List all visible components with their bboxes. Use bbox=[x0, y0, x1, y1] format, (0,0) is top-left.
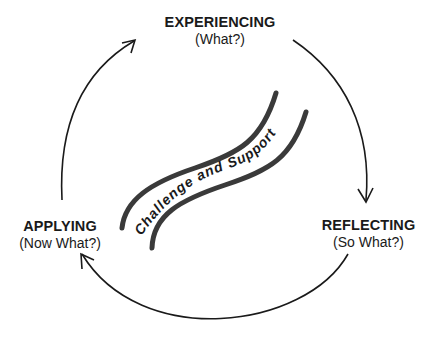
stage-subtitle: (What?) bbox=[120, 31, 320, 47]
stage-experiencing: EXPERIENCING (What?) bbox=[120, 14, 320, 47]
stage-title: EXPERIENCING bbox=[120, 14, 320, 31]
arrow-applying-to-experiencing bbox=[62, 40, 135, 200]
stage-title: APPLYING bbox=[0, 218, 120, 235]
stage-reflecting: REFLECTING (So What?) bbox=[300, 217, 437, 250]
arrow-reflecting-to-applying bbox=[81, 254, 348, 319]
challenge-support-band: Challenge and Support bbox=[122, 93, 306, 248]
stage-subtitle: (So What?) bbox=[300, 234, 437, 250]
band-lower-stroke bbox=[152, 112, 306, 248]
band-label: Challenge and Support bbox=[131, 125, 280, 238]
arc-left bbox=[62, 41, 134, 200]
cycle-diagram: Challenge and Support bbox=[0, 0, 437, 351]
arrowhead-down-icon bbox=[358, 188, 373, 202]
arc-bottom bbox=[82, 254, 348, 319]
stage-subtitle: (Now What?) bbox=[0, 235, 120, 251]
stage-applying: APPLYING (Now What?) bbox=[0, 218, 120, 251]
stage-title: REFLECTING bbox=[300, 217, 437, 234]
